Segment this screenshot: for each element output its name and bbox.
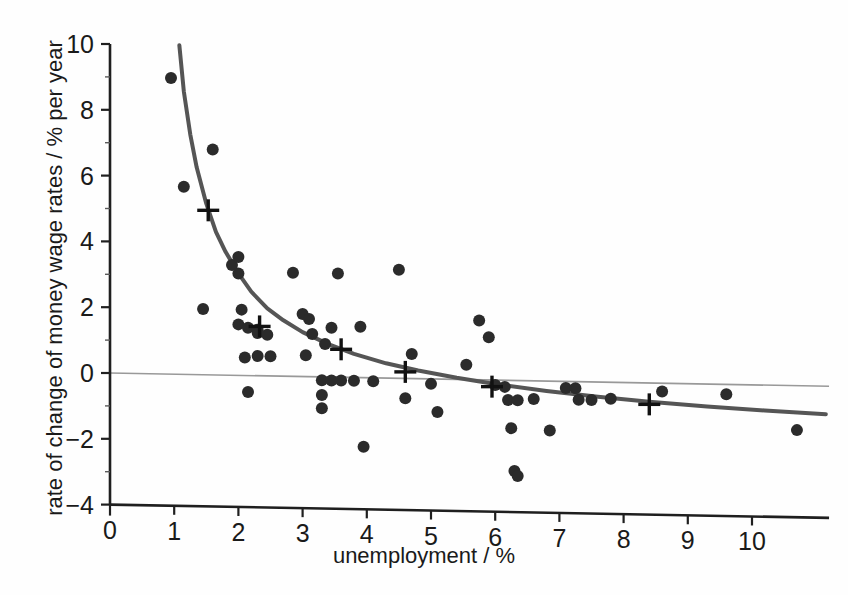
x-tick-label: 2 — [231, 518, 245, 546]
data-point — [425, 378, 437, 390]
x-axis-line — [110, 505, 829, 518]
data-point — [512, 394, 524, 406]
data-point — [252, 350, 264, 362]
x-tick-label: 0 — [103, 516, 117, 544]
y-tick-label: 2 — [80, 293, 94, 321]
data-point — [656, 385, 668, 397]
x-tick-label: 3 — [296, 519, 310, 547]
data-point — [406, 348, 418, 360]
data-point — [473, 315, 485, 327]
data-point — [569, 382, 581, 394]
phillips-curve-figure: 1086420−2−4012345678910 unemployment / %… — [0, 0, 848, 595]
fitted-curve — [179, 45, 825, 414]
data-points — [165, 72, 803, 482]
data-point — [720, 388, 732, 400]
data-point — [605, 393, 617, 405]
data-point — [207, 144, 219, 156]
y-tick-label: −2 — [65, 425, 94, 453]
data-point — [505, 422, 517, 434]
data-point — [325, 322, 337, 334]
data-point — [265, 350, 277, 362]
x-tick-label: 1 — [167, 517, 181, 545]
group-mean-marker — [481, 376, 503, 398]
data-point — [316, 389, 328, 401]
data-point — [232, 251, 244, 263]
data-point — [358, 441, 370, 453]
data-point — [335, 375, 347, 387]
data-point — [348, 375, 360, 387]
data-point — [332, 268, 344, 280]
data-point — [528, 393, 540, 405]
group-mean-marker — [197, 199, 219, 221]
data-point — [316, 402, 328, 414]
data-point — [242, 386, 254, 398]
x-tick-label: 10 — [738, 527, 766, 555]
data-point — [791, 424, 803, 436]
data-point — [306, 328, 318, 340]
fitted-curve-path — [179, 45, 825, 414]
y-axis-title: rate of change of money wage rates / % p… — [42, 40, 67, 516]
data-point — [197, 303, 209, 315]
data-point — [287, 267, 299, 279]
data-point — [354, 321, 366, 333]
y-tick-label: −4 — [65, 491, 94, 519]
data-point — [399, 392, 411, 404]
x-axis-title: unemployment / % — [333, 543, 515, 568]
data-point — [300, 349, 312, 361]
data-point — [303, 313, 315, 325]
data-point — [232, 267, 244, 279]
axis-ticks — [101, 44, 752, 525]
data-point — [236, 304, 248, 316]
x-tick-label: 7 — [552, 524, 566, 552]
data-point — [460, 359, 472, 371]
data-point — [431, 406, 443, 418]
data-point — [239, 351, 251, 363]
data-point — [512, 470, 524, 482]
data-point — [483, 331, 495, 343]
y-tick-label: 4 — [80, 227, 94, 255]
y-tick-label: 8 — [80, 96, 94, 124]
data-point — [261, 329, 273, 341]
data-point — [367, 375, 379, 387]
y-tick-label: 10 — [66, 30, 94, 58]
data-point — [573, 394, 585, 406]
data-point — [165, 72, 177, 84]
axis-tick-labels: 1086420−2−4012345678910 — [65, 30, 765, 555]
data-point — [319, 338, 331, 350]
axis-lines — [110, 44, 829, 518]
data-point — [393, 264, 405, 276]
data-point — [544, 424, 556, 436]
data-point — [586, 394, 598, 406]
data-point — [178, 181, 190, 193]
y-tick-label: 6 — [80, 162, 94, 190]
x-tick-label: 8 — [617, 525, 631, 553]
x-tick-label: 9 — [681, 526, 695, 554]
chart-canvas: 1086420−2−4012345678910 unemployment / %… — [0, 0, 848, 595]
y-tick-label: 0 — [80, 359, 94, 387]
group-mean-marker — [330, 338, 352, 360]
group-mean-marker — [638, 393, 660, 415]
